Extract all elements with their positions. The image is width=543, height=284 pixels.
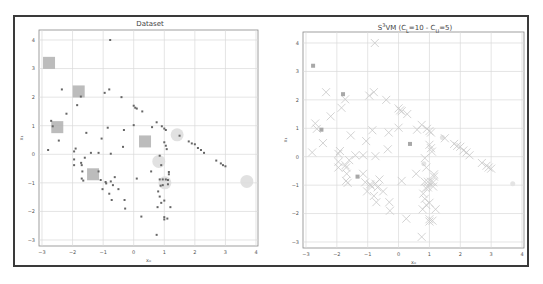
dataset-xtick-label: 4 xyxy=(254,249,257,255)
class1-square-marker xyxy=(73,85,85,97)
class0-circle-marker xyxy=(240,175,253,188)
unlabeled-point xyxy=(111,199,113,201)
dataset-xtick-label: 3 xyxy=(224,249,227,255)
unlabeled-point xyxy=(52,125,54,127)
unlabeled-point xyxy=(203,152,205,154)
unlabeled-point xyxy=(100,179,102,181)
unlabeled-point xyxy=(156,234,158,236)
unlabeled-point xyxy=(65,113,67,115)
dataset-ytick-label: 2 xyxy=(32,94,35,100)
dataset-ytick-label: 3 xyxy=(32,65,35,71)
unlabeled-point xyxy=(102,188,104,190)
unlabeled-point xyxy=(101,138,103,140)
unlabeled-point xyxy=(133,124,135,126)
class0-faint-marker xyxy=(510,181,515,186)
unlabeled-point xyxy=(222,164,224,166)
s3vm-ytick-label: 1 xyxy=(296,125,299,131)
unlabeled-point xyxy=(159,196,161,198)
unlabeled-point xyxy=(179,135,181,137)
s3vm-ytick-label: −3 xyxy=(292,239,299,245)
unlabeled-point xyxy=(81,164,83,166)
unlabeled-point xyxy=(109,39,111,41)
unlabeled-point xyxy=(110,153,112,155)
unlabeled-point xyxy=(112,184,114,186)
dataset-ylabel: x₁ xyxy=(18,136,24,141)
unlabeled-point xyxy=(151,126,153,128)
unlabeled-point xyxy=(108,88,110,90)
unlabeled-point xyxy=(98,152,100,154)
unlabeled-point xyxy=(133,105,135,107)
labeled-square-marker xyxy=(356,175,360,179)
s3vm-ylabel: x₁ xyxy=(282,138,288,143)
unlabeled-point xyxy=(150,170,152,172)
class0-circle-marker xyxy=(171,128,184,141)
dataset-xtick-label: −1 xyxy=(99,249,106,255)
class0-circle-marker xyxy=(152,155,165,168)
unlabeled-point xyxy=(163,200,165,202)
unlabeled-point xyxy=(117,188,119,190)
class1-square-marker xyxy=(87,168,99,180)
unlabeled-point xyxy=(163,216,165,218)
s3vm-plot-title: S3VM (CL=10 - CU=5) xyxy=(350,22,480,34)
unlabeled-point xyxy=(81,178,83,180)
labeled-square-marker xyxy=(319,128,323,132)
unlabeled-point xyxy=(122,146,124,148)
unlabeled-point xyxy=(80,162,82,164)
unlabeled-point xyxy=(123,129,125,131)
unlabeled-point xyxy=(81,170,83,172)
dataset-xtick-label: 2 xyxy=(193,249,196,255)
dataset-ytick-label: −2 xyxy=(28,208,35,214)
unlabeled-point xyxy=(157,190,159,192)
s3vm-ytick-label: 3 xyxy=(296,68,299,74)
unlabeled-point xyxy=(188,140,190,142)
unlabeled-point xyxy=(166,148,168,150)
unlabeled-point xyxy=(141,110,143,112)
unlabeled-point xyxy=(84,157,86,159)
unlabeled-point xyxy=(163,218,165,220)
unlabeled-point xyxy=(156,121,158,123)
unlabeled-point xyxy=(160,202,162,204)
unlabeled-point xyxy=(120,96,122,98)
class0-circle-marker xyxy=(158,176,171,189)
title-part: =5) xyxy=(439,24,452,32)
dataset-xtick-label: 1 xyxy=(163,249,166,255)
unlabeled-point xyxy=(200,149,202,151)
s3vm-ytick-label: −1 xyxy=(292,182,299,188)
s3vm-xtick-label: −3 xyxy=(302,251,309,257)
unlabeled-point xyxy=(107,127,109,129)
dataset-ytick-label: 4 xyxy=(32,37,35,43)
unlabeled-point xyxy=(163,141,165,143)
unlabeled-point xyxy=(165,129,167,131)
unlabeled-point xyxy=(61,88,63,90)
unlabeled-point xyxy=(167,183,169,185)
unlabeled-point xyxy=(50,120,52,122)
class1-square-marker xyxy=(43,57,55,69)
s3vm-ytick-label: −2 xyxy=(292,210,299,216)
unlabeled-point xyxy=(191,142,193,144)
s3vm-ytick-label: 2 xyxy=(296,97,299,103)
unlabeled-point xyxy=(162,178,164,180)
labeled-square-marker xyxy=(341,92,345,96)
unlabeled-point xyxy=(194,143,196,145)
dataset-xtick-label: −3 xyxy=(38,249,45,255)
unlabeled-point xyxy=(157,206,159,208)
unlabeled-point xyxy=(58,140,60,142)
dataset-ytick-label: −1 xyxy=(28,180,35,186)
unlabeled-point xyxy=(105,182,107,184)
unlabeled-point xyxy=(160,185,162,187)
unlabeled-point xyxy=(136,108,138,110)
unlabeled-point xyxy=(159,155,161,157)
unlabeled-point xyxy=(124,199,126,201)
unlabeled-point xyxy=(224,165,226,167)
unlabeled-point xyxy=(161,125,163,127)
s3vm-xtick-label: −2 xyxy=(333,251,340,257)
labeled-square-marker xyxy=(408,142,412,146)
labeled-square-marker xyxy=(311,64,315,68)
dataset-xtick-label: −2 xyxy=(69,249,76,255)
s3vm-xtick-label: 1 xyxy=(428,251,431,257)
dataset-ytick-label: −3 xyxy=(28,237,35,243)
unlabeled-point xyxy=(160,164,162,166)
unlabeled-point xyxy=(197,147,199,149)
class1-square-marker xyxy=(139,135,151,147)
unlabeled-point xyxy=(110,180,112,182)
